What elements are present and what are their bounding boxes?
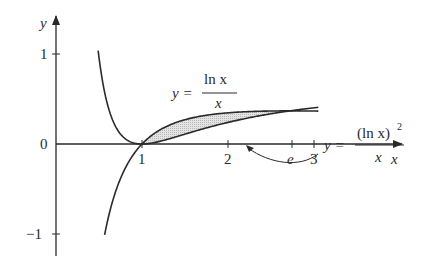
x-tick-label-2: 2	[224, 151, 232, 167]
graph: y x 1 0 −1 1 2 e 3 y = ln x x y = (ln x)…	[0, 0, 428, 268]
curve2-exponent: 2	[397, 121, 402, 132]
y-tick-label-minus-1: −1	[26, 226, 42, 242]
curve1-denominator: x	[214, 95, 222, 111]
y-tick-label-0: 0	[40, 136, 48, 152]
y-tick-label-1: 1	[40, 46, 48, 62]
curve2-lhs: y =	[322, 137, 345, 153]
curve-ln-x-squared-over-x	[98, 51, 318, 144]
x-tick-label-1: 1	[138, 151, 146, 167]
curve-ln-x-over-x	[105, 111, 319, 235]
x-tick-label-e: e	[287, 151, 294, 167]
curve1-label: y = ln x x	[170, 71, 237, 111]
curve1-numerator: ln x	[204, 71, 227, 87]
x-axis-label: x	[390, 151, 398, 167]
curve2-numerator: (ln x)	[357, 125, 390, 142]
curve1-lhs: y =	[170, 85, 193, 101]
y-axis-label: y	[38, 15, 47, 31]
x-tick-label-3: 3	[310, 151, 318, 167]
curve2-denominator: x	[374, 149, 382, 165]
pointer-arrow	[248, 148, 318, 163]
